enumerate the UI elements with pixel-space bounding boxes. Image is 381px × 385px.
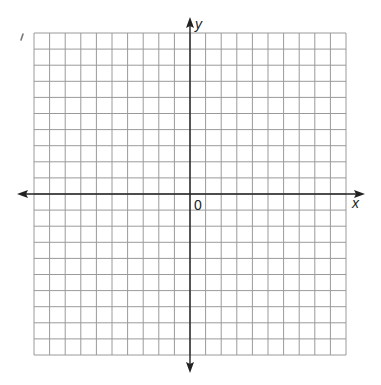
axes <box>17 17 365 373</box>
coordinate-plane: y x 0 <box>0 0 381 385</box>
stray-mark-icon <box>21 34 23 40</box>
origin-label: 0 <box>194 197 202 213</box>
x-axis-label: x <box>351 195 360 211</box>
y-axis-label: y <box>194 16 203 32</box>
